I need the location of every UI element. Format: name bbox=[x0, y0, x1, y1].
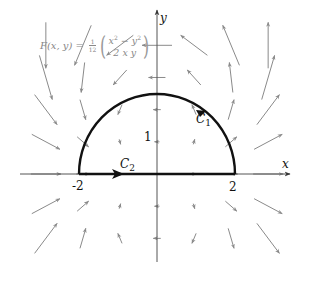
right-paren: ) bbox=[143, 33, 149, 59]
c1-subscript: 1 bbox=[205, 118, 211, 128]
vector-component-2: 2 x y bbox=[113, 47, 136, 59]
coef-numerator: 1 bbox=[91, 38, 95, 45]
field-arrow-icon bbox=[119, 139, 120, 144]
vector-component-1: x2 − y2 bbox=[109, 32, 141, 47]
field-arrow-icon bbox=[35, 223, 58, 253]
field-arrow-icon bbox=[192, 233, 196, 243]
field-arrow-icon bbox=[119, 204, 120, 209]
field-arrow-icon bbox=[225, 201, 236, 211]
field-arrow-icon bbox=[77, 201, 88, 211]
comp1-minus-y: − y bbox=[118, 35, 137, 46]
field-arrow-icon bbox=[254, 134, 282, 149]
left-paren: ( bbox=[100, 33, 106, 59]
formula-lhs: F(x, y) bbox=[40, 40, 72, 51]
x-axis-label: x bbox=[282, 158, 289, 170]
field-arrow-icon bbox=[181, 35, 208, 55]
field-arrow-icon bbox=[35, 95, 58, 125]
coef-denominator: 12 bbox=[89, 46, 97, 53]
formula-coefficient: 1 12 bbox=[89, 38, 97, 53]
tick-label-neg2: -2 bbox=[72, 180, 84, 192]
field-arrow-icon bbox=[113, 70, 127, 85]
formula-vector: x2 − y2 2 x y bbox=[109, 32, 141, 59]
field-arrow-icon bbox=[118, 233, 122, 243]
field-arrow-icon bbox=[254, 199, 282, 214]
curve-c2-label: C2 bbox=[120, 158, 135, 173]
curve-c1-label: C1 bbox=[196, 113, 211, 128]
field-arrow-icon bbox=[187, 70, 201, 85]
field-arrow-icon bbox=[257, 223, 280, 253]
c1-letter: C bbox=[196, 112, 205, 126]
field-arrow-icon bbox=[229, 62, 233, 92]
field-arrow-icon bbox=[223, 25, 240, 65]
y-axis-label: y bbox=[160, 12, 167, 24]
field-arrow-icon bbox=[257, 95, 280, 125]
formula-equals: = bbox=[75, 40, 83, 51]
tick-label-pos2: 2 bbox=[229, 181, 237, 193]
c2-letter: C bbox=[120, 157, 129, 171]
comp1-exp-2: 2 bbox=[137, 34, 141, 41]
field-arrow-icon bbox=[80, 228, 86, 248]
field-arrow-icon bbox=[32, 199, 60, 214]
field-arrow-icon bbox=[80, 100, 86, 120]
field-arrow-icon bbox=[81, 62, 85, 92]
vector-field-formula: F(x, y) = 1 12 ( x2 − y2 2 x y ) bbox=[40, 32, 151, 59]
field-arrow-icon bbox=[228, 228, 234, 248]
field-arrow-icon bbox=[32, 134, 60, 149]
field-arrow-icon bbox=[193, 139, 194, 144]
c2-subscript: 2 bbox=[129, 163, 135, 173]
field-arrow-icon bbox=[118, 105, 122, 115]
tick-label-1: 1 bbox=[144, 131, 152, 143]
field-arrow-icon bbox=[228, 100, 234, 120]
field-arrow-icon bbox=[193, 204, 194, 209]
